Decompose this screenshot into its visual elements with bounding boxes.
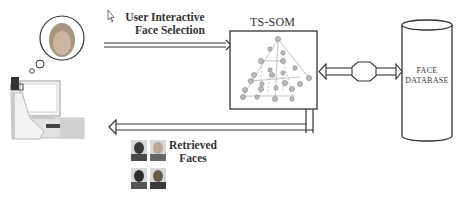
retrieved-label: Retrieved Faces — [168, 139, 218, 165]
user-at-computer-icon — [11, 77, 84, 139]
retrieved-face-3 — [131, 168, 147, 189]
thought-bubble-face-icon — [30, 16, 84, 73]
selection-label-line1: User Interactive — [115, 11, 215, 24]
retrieved-label-line1: Retrieved — [168, 139, 218, 152]
retrieved-face-4 — [150, 168, 166, 189]
retrieved-face-2 — [150, 140, 166, 161]
selection-label: User Interactive Face Selection — [115, 11, 215, 37]
retrieval-arrow — [109, 120, 313, 134]
cursor-pointer-icon — [108, 10, 114, 22]
som-title: TS-SOM — [250, 15, 295, 30]
database-label-line1: FACE — [402, 66, 452, 76]
selection-arrow — [104, 40, 231, 50]
retrieved-label-line2: Faces — [168, 152, 218, 165]
database-label-line2: DATABASE — [402, 76, 452, 86]
retrieved-face-1 — [131, 140, 147, 161]
selection-label-line2: Face Selection — [115, 24, 215, 37]
som-database-arrow — [319, 62, 402, 81]
database-label: FACE DATABASE — [402, 66, 452, 86]
diagram-canvas — [0, 0, 464, 202]
